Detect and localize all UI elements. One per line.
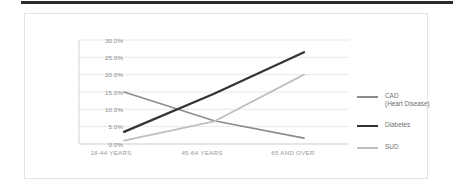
legend-item-diabetes[interactable]: Diabetes — [357, 121, 455, 129]
legend-line-icon-diabetes — [357, 123, 378, 129]
legend-label: CAD (Heart Disease) — [385, 92, 430, 108]
legend-label: SUD — [385, 143, 399, 151]
y-axis-tick-label: 30.0% — [77, 38, 123, 44]
top-dark-bar — [21, 1, 453, 4]
series-line — [124, 75, 304, 141]
legend-line-icon-cad — [357, 94, 378, 100]
legend-item-sud[interactable]: SUD — [357, 143, 455, 151]
y-axis-tick-label: 0.0% — [77, 142, 123, 148]
y-axis-tick-label: 10.0% — [77, 107, 123, 113]
series-line — [124, 92, 304, 138]
legend-item-cad[interactable]: CAD (Heart Disease) — [357, 92, 455, 108]
series-lines — [124, 52, 304, 140]
chart-frame: 30.0% 25.0% 20.0% 15.0% 10.0% 5.0% 0.0% … — [24, 13, 428, 179]
x-axis-tick-label: 65 AND OVER — [250, 150, 336, 156]
y-axis-tick-label: 25.0% — [77, 55, 123, 61]
x-axis-tick-label: 18-44 YEARS — [68, 150, 154, 156]
x-axis-tick-label: 45-64 YEARS — [159, 150, 245, 156]
legend-line-icon-sud — [357, 145, 378, 151]
chart-legend: CAD (Heart Disease) Diabetes SUD — [357, 92, 455, 164]
y-axis-tick-label: 15.0% — [77, 90, 123, 96]
legend-label: Diabetes — [385, 121, 410, 129]
y-axis-tick-label: 20.0% — [77, 72, 123, 78]
y-axis-tick-label: 5.0% — [77, 124, 123, 130]
